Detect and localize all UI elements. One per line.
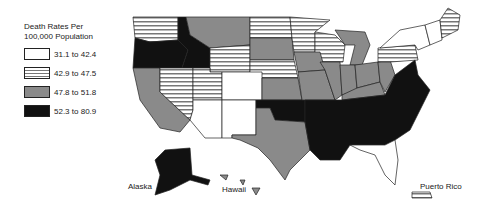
legend-item: 42.9 to 47.5 — [24, 66, 134, 80]
legend-swatch-black — [24, 105, 50, 117]
state-WA — [133, 17, 178, 42]
state-ND — [250, 17, 292, 38]
label-alaska: Alaska — [128, 182, 152, 191]
state-NM — [222, 100, 256, 138]
label-puerto-rico: Puerto Rico — [420, 182, 462, 191]
state-SD — [250, 38, 294, 60]
legend-label: 47.8 to 51.8 — [54, 88, 96, 97]
label-hawaii: Hawaii — [222, 185, 246, 194]
legend-label: 31.1 to 42.4 — [54, 50, 96, 59]
legend-label: 52.3 to 80.9 — [54, 107, 96, 116]
legend-title-line1: Death Rates Per — [24, 22, 134, 32]
state-FL — [350, 140, 398, 185]
legend-item: 52.3 to 80.9 — [24, 104, 134, 118]
state-AZ — [190, 100, 222, 138]
legend-swatch-gray — [24, 86, 50, 98]
legend-title-line2: 100,000 Population — [24, 32, 134, 42]
territory-PR — [412, 192, 432, 198]
state-KS — [262, 78, 302, 100]
state-WY — [210, 45, 250, 72]
legend-item: 31.1 to 42.4 — [24, 47, 134, 61]
legend-swatch-white — [24, 48, 50, 60]
state-OR — [133, 38, 188, 68]
state-ME — [440, 8, 460, 38]
legend: Death Rates Per 100,000 Population 31.1 … — [24, 22, 134, 118]
legend-swatch-striped — [24, 67, 50, 79]
legend-label: 42.9 to 47.5 — [54, 69, 96, 78]
state-AK — [155, 148, 210, 195]
state-CO — [222, 72, 262, 100]
state-UT — [193, 68, 222, 100]
legend-item: 47.8 to 51.8 — [24, 85, 134, 99]
